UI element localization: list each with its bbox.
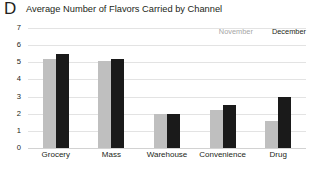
x-axis-tick-label: Convenience xyxy=(195,150,251,160)
bar-group xyxy=(250,28,306,148)
bar-group xyxy=(28,28,84,148)
bar[interactable] xyxy=(223,105,236,148)
bar[interactable] xyxy=(210,110,223,148)
chart-title: Average Number of Flavors Carried by Cha… xyxy=(26,3,222,15)
y-axis-tick-label: 4 xyxy=(17,75,21,83)
y-axis-tick-label: 7 xyxy=(17,24,21,32)
y-axis-tick-label: 6 xyxy=(17,41,21,49)
y-axis-tick-label: 5 xyxy=(17,58,21,66)
bar[interactable] xyxy=(111,59,124,148)
bar-group xyxy=(195,28,251,148)
x-axis-tick-label: Drug xyxy=(250,150,306,160)
x-axis-labels: GroceryMassWarehouseConvenienceDrug xyxy=(28,150,306,160)
chart-figure: D Average Number of Flavors Carried by C… xyxy=(0,0,313,173)
y-axis-tick-label: 2 xyxy=(17,110,21,118)
x-axis-tick-label: Grocery xyxy=(28,150,84,160)
bar[interactable] xyxy=(56,54,69,148)
x-axis-tick-label: Mass xyxy=(84,150,140,160)
bar-group xyxy=(84,28,140,148)
x-axis-tick-label: Warehouse xyxy=(139,150,195,160)
plot-area xyxy=(28,28,306,148)
bar[interactable] xyxy=(154,114,167,148)
bar[interactable] xyxy=(265,121,278,148)
bar-group xyxy=(139,28,195,148)
chart-header: D Average Number of Flavors Carried by C… xyxy=(0,0,313,22)
bar[interactable] xyxy=(167,114,180,148)
y-axis-labels: 01234567 xyxy=(0,28,26,148)
bar-groups xyxy=(28,28,306,148)
y-axis-tick-label: 0 xyxy=(17,144,21,152)
gridline xyxy=(28,148,306,149)
y-axis-tick-label: 1 xyxy=(17,127,21,135)
bar[interactable] xyxy=(43,59,56,148)
bar[interactable] xyxy=(98,61,111,148)
y-axis-tick-label: 3 xyxy=(17,93,21,101)
panel-letter: D xyxy=(4,0,16,19)
bar[interactable] xyxy=(278,97,291,148)
